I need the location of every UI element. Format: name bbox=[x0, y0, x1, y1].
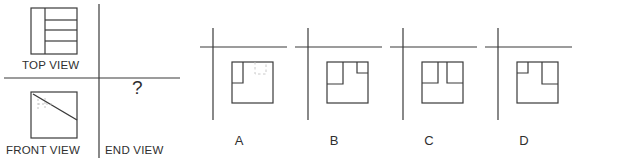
option-d-drawing[interactable] bbox=[485, 28, 572, 120]
end-view-label: END VIEW bbox=[105, 145, 163, 157]
end-view-question-mark: ? bbox=[132, 78, 143, 97]
option-label-d[interactable]: D bbox=[504, 134, 544, 147]
option-a-drawing[interactable] bbox=[200, 28, 287, 120]
front-view-diagonal bbox=[33, 94, 77, 120]
option-c-notch-right bbox=[447, 62, 463, 83]
option-c-drawing[interactable] bbox=[390, 28, 477, 120]
front-view-shape bbox=[31, 92, 77, 138]
option-label-b[interactable]: B bbox=[314, 134, 354, 147]
problem-canvas: TOP VIEW FRONT VIEW END VIEW ? A B C D bbox=[0, 0, 623, 163]
option-d-notch-left bbox=[517, 62, 528, 73]
top-view-label: TOP VIEW bbox=[22, 60, 79, 72]
option-b-square bbox=[327, 62, 368, 103]
option-a-notch-left bbox=[232, 62, 243, 83]
top-view-outline bbox=[31, 8, 77, 54]
option-d-square bbox=[517, 62, 558, 103]
option-label-a[interactable]: A bbox=[219, 134, 259, 147]
front-view-outline bbox=[31, 92, 77, 138]
top-view-shape bbox=[31, 8, 77, 54]
option-b-notch-left bbox=[327, 62, 343, 84]
option-b-drawing[interactable] bbox=[295, 28, 382, 120]
option-b-notch-right bbox=[357, 62, 368, 73]
option-label-c[interactable]: C bbox=[409, 134, 449, 147]
option-d-notch-right bbox=[542, 62, 558, 84]
front-view-label: FRONT VIEW bbox=[6, 145, 80, 157]
option-c-notch-left bbox=[422, 62, 438, 83]
option-a-hidden-detail bbox=[255, 62, 266, 74]
